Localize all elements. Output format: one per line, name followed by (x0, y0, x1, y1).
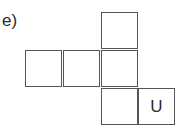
net-square-middle-left (25, 50, 62, 87)
net-square-middle-right (101, 50, 138, 87)
net-square-bottom-right: U (138, 88, 175, 125)
figure-label: e) (2, 12, 17, 29)
net-square-top (101, 12, 138, 49)
square-letter-u: U (150, 97, 162, 117)
net-square-bottom-left (101, 88, 138, 125)
net-square-middle-center (63, 50, 100, 87)
